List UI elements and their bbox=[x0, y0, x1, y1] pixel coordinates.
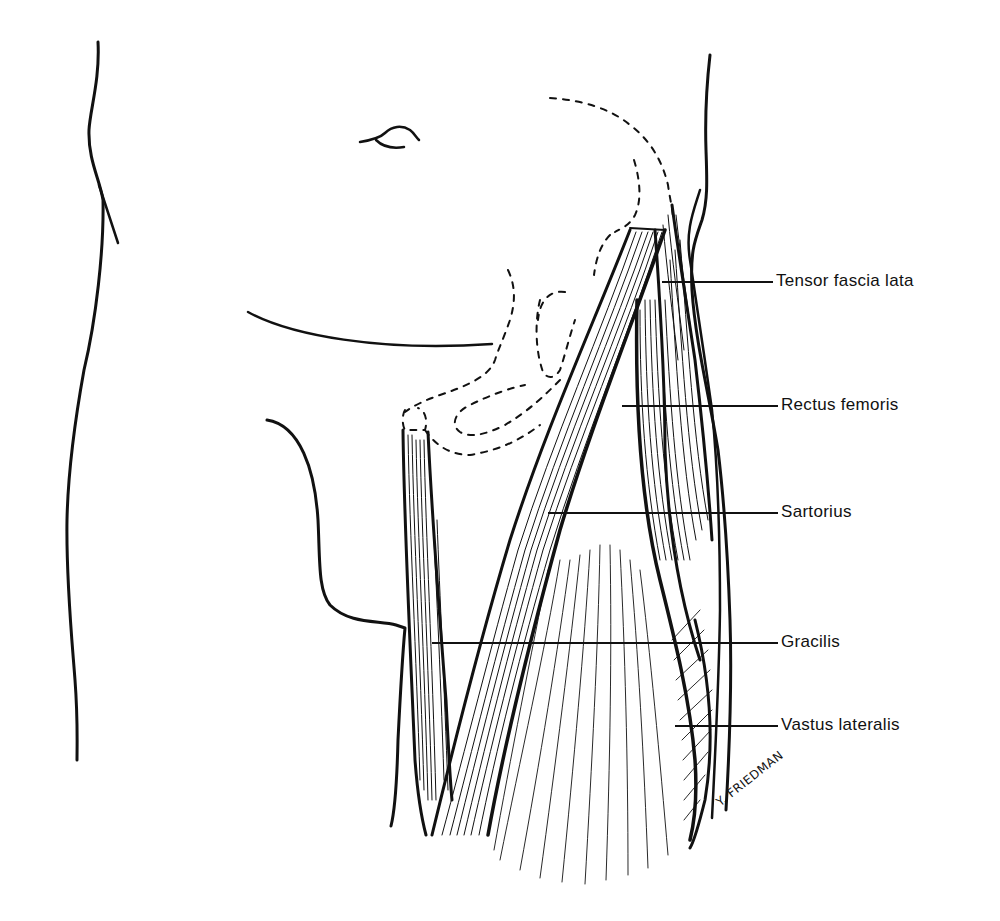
label-tensor-fascia-lata: Tensor fascia lata bbox=[776, 272, 914, 289]
rectus-femoris-muscle bbox=[637, 230, 708, 840]
label-vastus-lateralis: Vastus lateralis bbox=[781, 716, 900, 733]
inguinal-crease bbox=[248, 312, 492, 346]
lower-fan-fibers bbox=[494, 545, 668, 884]
medial-thigh-outline bbox=[267, 420, 405, 826]
right-outer-outline bbox=[692, 55, 731, 810]
anatomy-illustration bbox=[0, 0, 1000, 921]
right-inner-outline bbox=[689, 190, 720, 818]
sartorius-muscle bbox=[432, 228, 665, 835]
gracilis-muscle bbox=[403, 430, 452, 835]
pelvis-dashed-outline bbox=[403, 98, 673, 455]
left-body-outline bbox=[67, 42, 103, 760]
label-rectus-femoris: Rectus femoris bbox=[781, 396, 899, 413]
label-sartorius: Sartorius bbox=[781, 503, 852, 520]
label-gracilis: Gracilis bbox=[781, 633, 840, 650]
navel-icon bbox=[360, 127, 419, 148]
